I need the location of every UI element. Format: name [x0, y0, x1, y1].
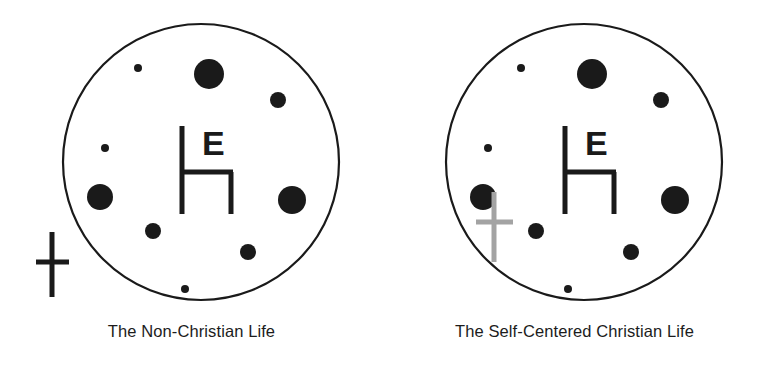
interest-dot — [194, 59, 224, 89]
interest-dot — [564, 285, 572, 293]
interest-dot — [661, 186, 689, 214]
panel-self-centered-christian-life: E The Self-Centered Christian Life — [383, 0, 766, 372]
interest-dot — [577, 59, 607, 89]
non-christian-life-illustration: E — [0, 0, 383, 372]
throne-ego-letter: E — [585, 124, 608, 162]
interest-dot — [240, 244, 256, 260]
interest-dot — [145, 223, 161, 239]
interest-dot — [101, 144, 109, 152]
self-centered-christian-life-illustration: E — [383, 0, 766, 372]
interest-dot — [87, 184, 113, 210]
caption-self-centered-christian-life: The Self-Centered Christian Life — [383, 322, 766, 341]
interest-dot — [623, 244, 639, 260]
interest-dot — [181, 285, 189, 293]
throne-ego-letter: E — [202, 124, 225, 162]
interest-dot — [528, 223, 544, 239]
interest-dot — [134, 64, 142, 72]
interest-dot — [653, 92, 669, 108]
interest-dot — [278, 186, 306, 214]
interest-dot — [270, 92, 286, 108]
caption-non-christian-life: The Non-Christian Life — [0, 322, 383, 341]
diagram-root: E The Non-Christian Life E The Self-Cent… — [0, 0, 766, 372]
panel-non-christian-life: E The Non-Christian Life — [0, 0, 383, 372]
interest-dot — [517, 64, 525, 72]
interest-dot — [484, 144, 492, 152]
cross-group — [36, 232, 69, 297]
